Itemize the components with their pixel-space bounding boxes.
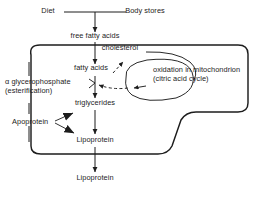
label-lipoprotein-outer: Lipoprotein [76,174,113,183]
edge-apoprotein-to-lipoprotein [55,123,74,133]
label-body-stores: Body stores [125,7,165,16]
edge-apoprotein-to-triglycerides [55,113,73,121]
label-diet: Diet [41,7,54,16]
label-cholesterol: cholesterol [102,44,138,53]
mitochondrion-inner-arrow [134,86,146,88]
label-apoprotein: Apoprotein [12,118,48,127]
diagram-canvas [0,0,258,197]
label-triglycerides: triglycerides [75,99,115,108]
feedback-tick-mark [89,79,95,88]
label-fatty-acids: fatty acids [74,64,108,73]
label-alpha-glycerophosphate-line2: (esterification) [5,87,52,96]
label-free-fatty-acids: free fatty acids [71,32,120,41]
edge-fatty-acids-to-oxidation-dashed [113,62,123,73]
label-oxidation-mitochondrion-line2: (citric acid cycle) [153,75,209,84]
edge-oxidation-to-fatty-acids-dashed [99,85,128,89]
label-lipoprotein-inner: Lipoprotein [76,136,113,145]
lipid-metabolism-diagram: Diet Body stores free fatty acids choles… [0,0,258,197]
